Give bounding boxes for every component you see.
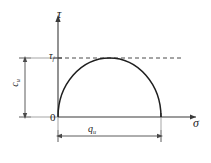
sigma-axis: [58, 114, 196, 119]
qu-dimension: [56, 130, 163, 142]
peak-shear-subscript: f: [53, 55, 55, 62]
cohesion-dimension-label: cu: [10, 79, 20, 87]
cohesion-subscript: u: [14, 79, 21, 82]
figure-canvas: [0, 0, 211, 163]
unconfined-strength-label: qu: [88, 124, 96, 134]
unconfined-strength-subscript: u: [93, 128, 96, 135]
peak-shear-label: τf: [49, 51, 54, 61]
tau-axis-label: τ: [57, 8, 61, 20]
cohesion-symbol: c: [9, 82, 20, 86]
mohr-circle-figure: τ σ 0 τf cu qu: [0, 0, 211, 163]
cu-dimension: [19, 56, 31, 119]
origin-label: 0: [50, 112, 56, 123]
sigma-axis-label: σ: [193, 117, 199, 129]
mohr-semicircle: [58, 58, 161, 117]
